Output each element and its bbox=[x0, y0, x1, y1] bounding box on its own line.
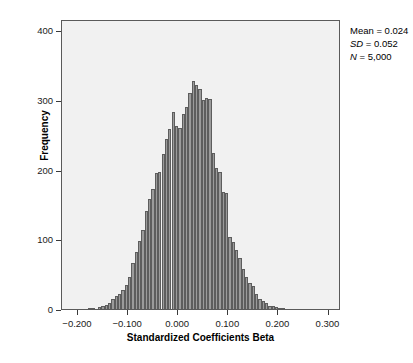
x-axis-tick bbox=[277, 310, 278, 315]
y-axis-tick bbox=[56, 310, 61, 311]
stat-mean: Mean = 0.024 bbox=[350, 24, 408, 37]
y-axis-tick bbox=[56, 240, 61, 241]
plot-area bbox=[61, 20, 340, 310]
stat-sd: SD = 0.052 bbox=[350, 37, 408, 50]
y-axis-title: Frequency bbox=[39, 96, 50, 176]
y-axis-tick-label: 400 bbox=[11, 25, 53, 36]
stat-mean-value: 0.024 bbox=[385, 25, 409, 36]
y-axis-tick bbox=[56, 101, 61, 102]
histogram-bar bbox=[282, 308, 285, 309]
x-axis-tick bbox=[177, 310, 178, 315]
y-axis-tick bbox=[56, 171, 61, 172]
x-axis-tick bbox=[227, 310, 228, 315]
histogram-bars bbox=[62, 21, 339, 309]
histogram-bar bbox=[91, 308, 94, 309]
stat-mean-equals: = bbox=[376, 25, 382, 36]
stat-n-equals: = bbox=[360, 51, 366, 62]
stat-sd-equals: = bbox=[366, 38, 372, 49]
stat-n: N = 5,000 bbox=[350, 50, 408, 63]
y-axis-tick-label: 100 bbox=[11, 234, 53, 245]
y-axis-tick-label: 0 bbox=[11, 304, 53, 315]
stat-n-label: N bbox=[350, 51, 357, 62]
statistics-annotation: Mean = 0.024 SD = 0.052 N = 5,000 bbox=[350, 24, 408, 63]
x-axis-tick bbox=[77, 310, 78, 315]
x-axis-tick bbox=[328, 310, 329, 315]
x-axis-tick bbox=[127, 310, 128, 315]
stat-n-value: 5,000 bbox=[368, 51, 392, 62]
x-axis-title: Standardized Coefficients Beta bbox=[61, 332, 340, 343]
stat-sd-label: SD bbox=[350, 38, 363, 49]
x-axis-tick-label: 0.300 bbox=[298, 318, 358, 329]
y-axis-tick bbox=[56, 31, 61, 32]
histogram-figure: 0100200300400 −0.200−0.1000.0000.1000.20… bbox=[0, 0, 413, 363]
stat-mean-label: Mean bbox=[350, 25, 374, 36]
stat-sd-value: 0.052 bbox=[374, 38, 398, 49]
